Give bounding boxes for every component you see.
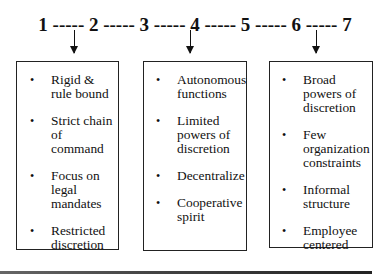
bullet-icon: • bbox=[30, 169, 34, 183]
bullet-icon: • bbox=[156, 114, 160, 128]
arrow-down-icon-7 bbox=[316, 30, 317, 53]
list-item: •Decentralize bbox=[177, 169, 247, 183]
list-item: •Rigid & rule bound bbox=[51, 73, 117, 101]
bullet-icon: • bbox=[156, 73, 160, 87]
list-item: •Cooperative spirit bbox=[177, 196, 247, 224]
box-middle: •Autonomous functions •Limited powers of… bbox=[143, 61, 247, 251]
bullet-icon: • bbox=[282, 128, 286, 142]
box-flexible: •Broad powers of discretion •Few organiz… bbox=[269, 61, 373, 248]
list-item: •Limited powers of discretion bbox=[177, 114, 237, 156]
list-item: •Informal structure bbox=[303, 183, 371, 211]
list-item: •Employee centered bbox=[303, 224, 363, 252]
list-item: •Restricted discretion bbox=[51, 224, 117, 252]
bullet-icon: • bbox=[282, 224, 286, 238]
bullet-icon: • bbox=[30, 224, 34, 238]
list-item: •Strict chain of command bbox=[51, 114, 117, 156]
list-item: •Focus on legal mandates bbox=[51, 169, 109, 211]
bullet-icon: • bbox=[30, 114, 34, 128]
continuum-scale: 1 ----- 2 ----- 3 ----- 4 ----- 5 ----- … bbox=[0, 14, 390, 36]
list-item: •Autonomous functions bbox=[177, 73, 245, 101]
list-item: •Few organization constraints bbox=[303, 128, 371, 170]
bullet-icon: • bbox=[282, 183, 286, 197]
bullet-icon: • bbox=[156, 196, 160, 210]
arrow-down-icon-1 bbox=[74, 30, 75, 53]
bullet-icon: • bbox=[30, 73, 34, 87]
bullet-icon: • bbox=[156, 169, 160, 183]
arrow-down-icon-4 bbox=[190, 30, 191, 53]
bullet-icon: • bbox=[282, 73, 286, 87]
box-bureaucratic: •Rigid & rule bound •Strict chain of com… bbox=[16, 61, 119, 250]
list-item: •Broad powers of discretion bbox=[303, 73, 359, 115]
